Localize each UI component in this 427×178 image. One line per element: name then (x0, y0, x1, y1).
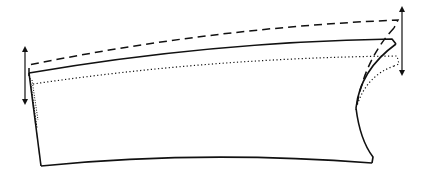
diagram-canvas (0, 0, 427, 178)
solid-profile (29, 39, 396, 166)
dashed-profile (29, 20, 398, 110)
deformation-diagram (0, 0, 427, 178)
